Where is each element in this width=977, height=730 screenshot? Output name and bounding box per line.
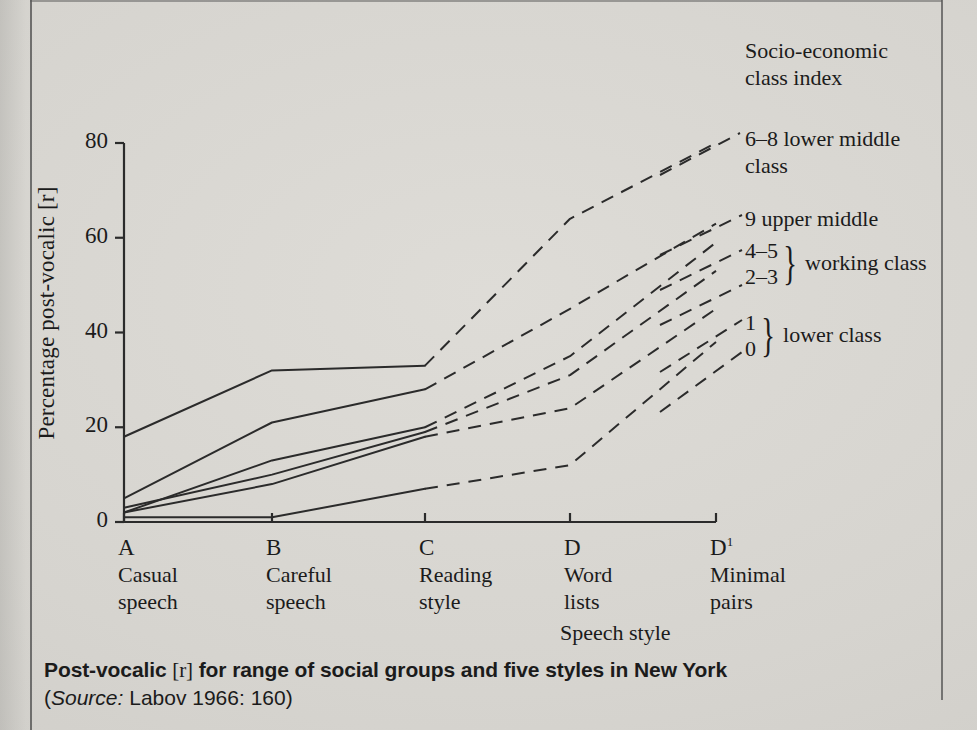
x-axis-title: Speech style (560, 620, 671, 646)
y-tick-label: 40 (58, 318, 108, 344)
series-line-dashed (425, 224, 716, 390)
x-tick-label: D1Minimalpairs (710, 534, 850, 616)
series-line-dashed (425, 242, 716, 427)
legend-lower-class-num-top: 1 (745, 310, 756, 336)
series-line-dashed (425, 143, 716, 366)
caption-source-rest: Labov 1966: 160) (123, 686, 292, 709)
legend-working-class-num-bottom: 2–3 (745, 264, 778, 290)
caption-source: (Source: Labov 1966: 160) (44, 686, 944, 710)
x-tick-line2: lists (564, 589, 704, 616)
legend-lower-class-label: lower class (783, 322, 881, 349)
legend-working-class-brace-icon: } (783, 246, 797, 282)
series-line-solid (124, 366, 425, 437)
y-axis-title: Percentage post-vocalic [r] (34, 148, 60, 478)
x-tick-letter: D1 (710, 534, 850, 562)
x-tick-letter: C (419, 534, 559, 562)
legend-leader-line (660, 285, 742, 325)
caption-source-label: Source: (51, 686, 123, 709)
x-tick-line1: Minimal (710, 562, 850, 589)
x-tick-superscript: 1 (727, 534, 734, 549)
x-tick-label: CReadingstyle (419, 534, 559, 616)
series-line-solid (124, 427, 425, 512)
x-tick-letter: B (266, 534, 406, 562)
legend-lower-class-numbers: 10 (745, 310, 756, 361)
x-tick-label: BCarefulspeech (266, 534, 406, 616)
x-tick-line2: pairs (710, 589, 850, 616)
caption-source-prefix: ( (44, 686, 51, 709)
x-tick-label: ACasualspeech (118, 534, 258, 616)
x-tick-letter: D (564, 534, 704, 562)
legend-entry-6-8: 6–8 lower middleclass (745, 126, 900, 179)
legend-lower-class-num-bottom: 0 (745, 336, 756, 362)
x-tick-line1: Casual (118, 562, 258, 589)
legend-leader-line (660, 250, 742, 290)
caption-main-a: Post-vocalic (44, 658, 167, 681)
x-tick-label: DWordlists (564, 534, 704, 616)
legend-lower-class-brace-icon: } (761, 318, 775, 354)
x-tick-line2: speech (266, 589, 406, 616)
legend-leader-line (660, 320, 742, 372)
x-tick-line2: style (419, 589, 559, 616)
figure-caption: Post-vocalic [r] for range of social gro… (44, 658, 944, 710)
chart-legend: Socio-economic class index 6–8 lower mid… (745, 38, 977, 109)
x-tick-line2: speech (118, 589, 258, 616)
legend-working-class-numbers: 4–52–3 (745, 238, 778, 289)
legend-working-class-num-top: 4–5 (745, 238, 778, 264)
legend-title-line2: class index (745, 65, 977, 92)
legend-title-line1: Socio-economic (745, 38, 977, 65)
legend-working-class-label: working class (805, 250, 927, 277)
legend-entry-9-line1: 9 upper middle (745, 206, 878, 233)
legend-title: Socio-economic class index (745, 38, 977, 91)
legend-leader-line (660, 215, 742, 255)
legend-lower-class: 10}lower class (745, 310, 881, 361)
y-tick-label: 20 (58, 412, 108, 438)
legend-entry-9: 9 upper middle (745, 206, 878, 233)
y-tick-label: 0 (58, 507, 108, 533)
x-tick-line1: Word (564, 562, 704, 589)
legend-leader-line (660, 352, 742, 412)
legend-working-class: 4–52–3}working class (745, 238, 927, 289)
series-line-dashed (425, 309, 716, 437)
caption-main-b: [r] (172, 658, 193, 682)
series-line-dashed (425, 271, 716, 432)
caption-main-c: for range of social groups and five styl… (199, 658, 727, 681)
x-tick-letter: A (118, 534, 258, 562)
legend-entry-6-8-line2: class (745, 153, 900, 180)
legend-leader-line (660, 133, 740, 175)
legend-entry-6-8-line1: 6–8 lower middle (745, 126, 900, 153)
x-tick-line1: Careful (266, 562, 406, 589)
y-tick-label: 80 (58, 128, 108, 154)
y-tick-label: 60 (58, 223, 108, 249)
x-tick-line1: Reading (419, 562, 559, 589)
caption-main: Post-vocalic [r] for range of social gro… (44, 658, 944, 683)
